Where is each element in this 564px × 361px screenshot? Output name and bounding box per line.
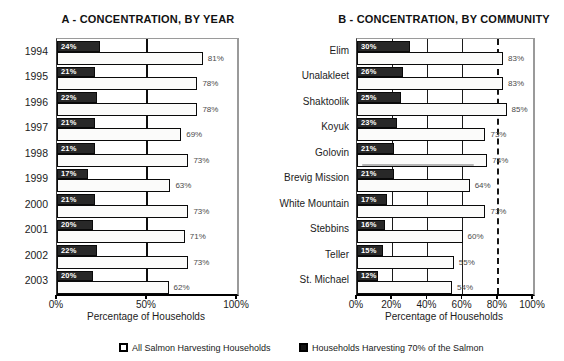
bar-value-label: 73% <box>193 258 209 267</box>
category-label-1996: 1996 <box>6 96 48 108</box>
white-bar <box>57 103 197 116</box>
bar-value-label: 83% <box>508 79 524 88</box>
bar-row-1998: 21%73% <box>57 141 237 167</box>
bar-row-2001: 20%71% <box>57 218 237 244</box>
legend-item-70pct-households: Households Harvesting 70% of the Salmon <box>299 341 484 354</box>
category-label-teller: Teller <box>249 249 349 260</box>
dark-bar: 21% <box>357 143 394 154</box>
bar-row-2003: 20%62% <box>57 269 237 295</box>
dark-bar-label: 20% <box>58 220 77 229</box>
dark-bar-label: 22% <box>58 93 77 102</box>
white-bar <box>357 77 503 90</box>
dark-bar-label: 16% <box>358 220 377 229</box>
dark-bar-label: 21% <box>58 118 77 127</box>
dark-bar: 30% <box>357 41 410 52</box>
bar-value-label: 83% <box>508 54 524 63</box>
x-tick-label-60: 60% <box>452 299 472 310</box>
open-square-icon <box>119 343 128 352</box>
white-bar <box>57 179 170 192</box>
white-bar <box>357 128 485 141</box>
x-tick-label-40: 40% <box>416 299 436 310</box>
category-label-2002: 2002 <box>6 249 48 261</box>
x-tick-label-100: 100% <box>223 299 249 310</box>
white-bar <box>57 256 188 269</box>
dark-bar-label: 21% <box>358 169 377 178</box>
white-bar <box>57 281 169 294</box>
bar-value-label: 60% <box>468 232 484 241</box>
bar-row-2002: 22%73% <box>57 243 237 269</box>
bar-value-label: 63% <box>175 181 191 190</box>
category-label-white-mountain: White Mountain <box>249 198 349 209</box>
dark-bar-label: 21% <box>58 144 77 153</box>
bar-row-shaktoolik: 25%85% <box>357 90 533 116</box>
x-tick-label-80: 80% <box>487 299 507 310</box>
legend-label: All Salmon Harvesting Households <box>132 343 271 353</box>
bar-value-label: 54% <box>457 283 473 292</box>
dark-bar: 25% <box>357 92 401 103</box>
panel-b-x-axis-title: Percentage of Households <box>356 311 532 322</box>
category-label-unalakleet: Unalakleet <box>249 70 349 81</box>
category-label-koyuk: Koyuk <box>249 121 349 132</box>
dark-bar-label: 25% <box>358 93 377 102</box>
dark-bar: 17% <box>357 194 387 205</box>
white-bar <box>57 154 188 167</box>
dark-bar-label: 24% <box>58 42 77 51</box>
dark-bar: 15% <box>357 245 383 256</box>
bar-value-label: 73% <box>193 207 209 216</box>
bar-row-stebbins: 16%60% <box>357 218 533 244</box>
category-label-elim: Elim <box>249 45 349 56</box>
bar-row-elim: 30%83% <box>357 39 533 65</box>
bar-row-1995: 21%78% <box>57 65 237 91</box>
x-tick-label-100: 100% <box>519 299 545 310</box>
legend-label: Households Harvesting 70% of the Salmon <box>312 343 484 353</box>
dark-bar: 22% <box>57 245 97 256</box>
white-bar <box>57 77 197 90</box>
dark-bar-label: 21% <box>58 195 77 204</box>
bar-row-1999: 17%63% <box>57 167 237 193</box>
dark-bar: 17% <box>57 169 88 180</box>
category-label-1998: 1998 <box>6 147 48 159</box>
dark-bar-label: 17% <box>58 169 77 178</box>
bar-value-label: 73% <box>193 156 209 165</box>
bar-value-label: 62% <box>174 283 190 292</box>
bar-value-label: 81% <box>208 54 224 63</box>
dark-bar: 16% <box>357 220 385 231</box>
bar-row-koyuk: 23%73% <box>357 116 533 142</box>
dark-bar: 21% <box>57 143 95 154</box>
dark-bar-label: 22% <box>58 246 77 255</box>
bar-row-1994: 24%81% <box>57 39 237 65</box>
legend-item-all-households: All Salmon Harvesting Households <box>119 341 271 354</box>
bar-row-unalakleet: 26%83% <box>357 65 533 91</box>
panel-b-title: B - CONCENTRATION, BY COMMUNITY <box>330 13 558 25</box>
bar-row-brevig-mission: 21%64% <box>357 167 533 193</box>
white-bar <box>57 52 203 65</box>
dark-bar-label: 20% <box>58 271 77 280</box>
bar-value-label: 85% <box>512 105 528 114</box>
x-tick-label-20: 20% <box>381 299 401 310</box>
dark-bar-label: 17% <box>358 195 377 204</box>
dark-bar: 20% <box>57 271 93 282</box>
dark-bar: 21% <box>357 169 394 180</box>
bar-value-label: 74% <box>492 156 508 165</box>
white-bar <box>357 103 507 116</box>
category-label-1997: 1997 <box>6 121 48 133</box>
scan-artifact <box>362 164 474 166</box>
white-bar <box>357 256 454 269</box>
white-bar <box>357 179 470 192</box>
dark-bar: 20% <box>57 220 93 231</box>
white-bar <box>57 128 181 141</box>
category-label-1994: 1994 <box>6 45 48 57</box>
category-label-stebbins: Stebbins <box>249 223 349 234</box>
x-tick-label-50: 50% <box>136 299 156 310</box>
bar-row-1997: 21%69% <box>57 116 237 142</box>
bar-row-st-michael: 12%54% <box>357 269 533 295</box>
dark-bar-label: 12% <box>358 271 377 280</box>
dark-bar-label: 21% <box>58 67 77 76</box>
bar-value-label: 64% <box>475 181 491 190</box>
dark-bar: 24% <box>57 41 100 52</box>
dark-bar-label: 26% <box>358 67 377 76</box>
bar-value-label: 71% <box>190 232 206 241</box>
dark-bar: 21% <box>57 67 95 78</box>
bar-row-2000: 21%73% <box>57 192 237 218</box>
bar-row-golovin: 21%74% <box>357 141 533 167</box>
